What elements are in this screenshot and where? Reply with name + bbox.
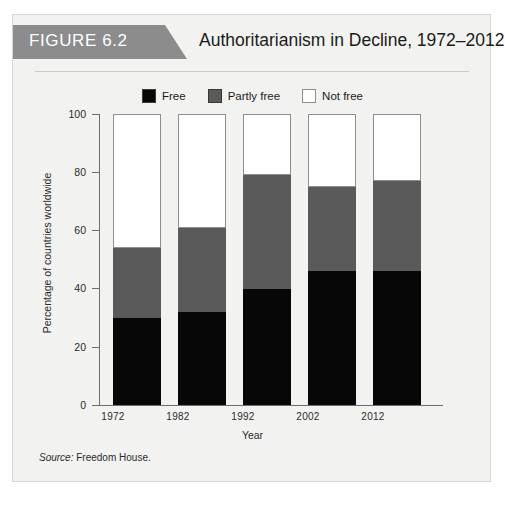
y-tick-label-20: 20 xyxy=(42,341,86,353)
y-tick-mark-80 xyxy=(92,172,100,173)
bar-segment-partly-free[interactable] xyxy=(178,228,226,312)
bar-1982[interactable] xyxy=(178,114,226,405)
bar-segment-partly-free[interactable] xyxy=(113,248,161,318)
source-note: Source: Freedom House. xyxy=(39,452,151,463)
bar-2012[interactable] xyxy=(373,114,421,405)
bar-segment-free[interactable] xyxy=(373,271,421,405)
y-tick-label-0: 0 xyxy=(42,399,86,411)
y-tick-mark-0 xyxy=(92,405,100,406)
y-tick-mark-100 xyxy=(92,114,100,115)
bar-segment-partly-free[interactable] xyxy=(373,181,421,271)
source-prefix: Source: xyxy=(39,452,73,463)
bar-segment-not-free[interactable] xyxy=(308,114,356,187)
bar-segment-free[interactable] xyxy=(178,312,226,405)
y-tick-label-80: 80 xyxy=(42,166,86,178)
source-text: Freedom House. xyxy=(76,452,150,463)
bar-group xyxy=(100,114,443,405)
figure-card: FIGURE 6.2 Authoritarianism in Decline, … xyxy=(12,14,491,482)
figure-page: FIGURE 6.2 Authoritarianism in Decline, … xyxy=(0,0,505,522)
bar-segment-not-free[interactable] xyxy=(178,114,226,227)
plot-area: Percentage of countries worldwide 100 80… xyxy=(13,15,492,483)
bar-segment-not-free[interactable] xyxy=(243,114,291,175)
y-tick-mark-20 xyxy=(92,347,100,348)
x-tick-label-2012: 2012 xyxy=(338,411,408,422)
bar-2002[interactable] xyxy=(308,114,356,405)
bar-segment-not-free[interactable] xyxy=(373,114,421,181)
x-axis-line xyxy=(99,405,443,406)
bar-segment-partly-free[interactable] xyxy=(308,187,356,271)
y-tick-label-40: 40 xyxy=(42,282,86,294)
bar-1992[interactable] xyxy=(243,114,291,405)
bar-segment-free[interactable] xyxy=(113,318,161,405)
y-tick-mark-40 xyxy=(92,288,100,289)
x-tick-label-2002: 2002 xyxy=(273,411,343,422)
y-axis-title: Percentage of countries worldwide xyxy=(41,153,53,353)
x-tick-label-1972: 1972 xyxy=(78,411,148,422)
bar-1972[interactable] xyxy=(113,114,161,405)
y-tick-label-100: 100 xyxy=(42,108,86,120)
x-axis-title: Year xyxy=(13,429,492,441)
y-tick-mark-60 xyxy=(92,230,100,231)
bar-segment-not-free[interactable] xyxy=(113,114,161,248)
x-tick-label-1982: 1982 xyxy=(143,411,213,422)
bar-segment-free[interactable] xyxy=(243,289,291,405)
bar-segment-partly-free[interactable] xyxy=(243,175,291,288)
x-tick-label-1992: 1992 xyxy=(208,411,278,422)
bar-segment-free[interactable] xyxy=(308,271,356,405)
y-tick-label-60: 60 xyxy=(42,224,86,236)
